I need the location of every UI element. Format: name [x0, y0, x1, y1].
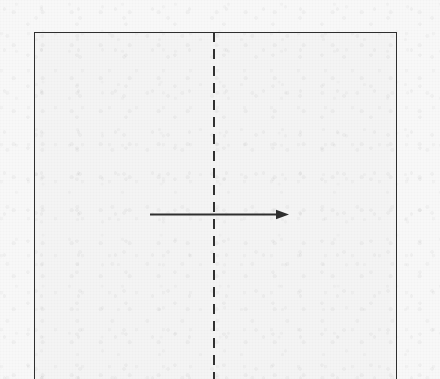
arrow-head [276, 210, 289, 219]
scanned-figure-page [0, 0, 440, 379]
rightward-flow-arrow-icon [148, 203, 292, 227]
arrow-svg [148, 203, 292, 227]
